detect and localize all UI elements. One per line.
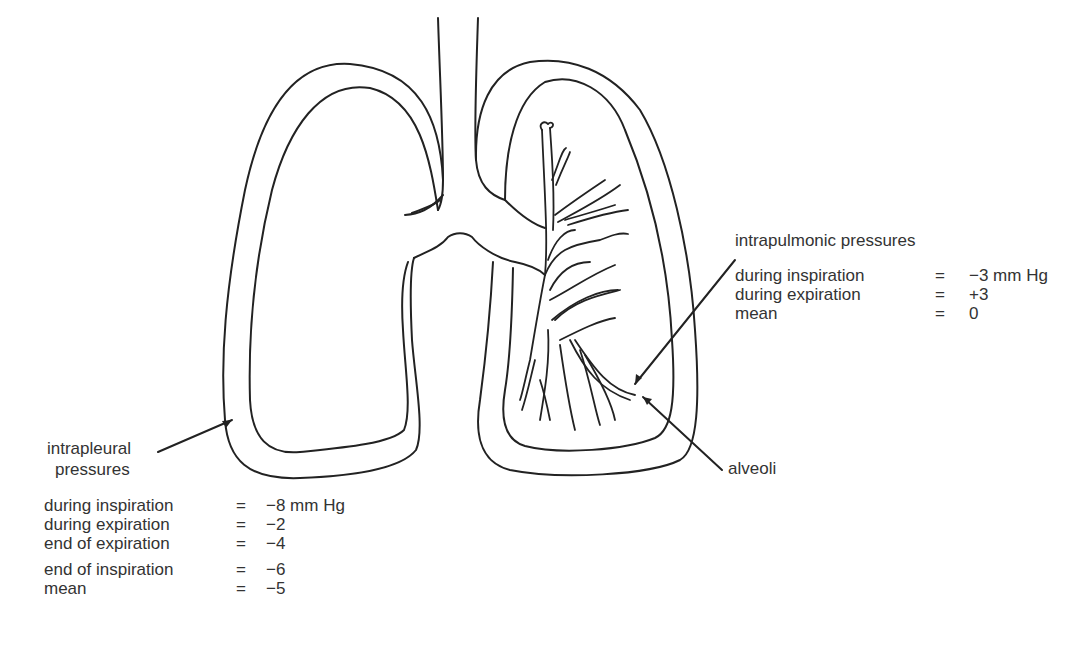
row-value: −8 mm Hg (256, 496, 345, 515)
bronchus-left (412, 200, 545, 275)
row-label: end of expiration (44, 534, 226, 553)
table-row: during inspiration = −3 mm Hg (735, 266, 1048, 285)
row-label: during inspiration (44, 496, 226, 515)
row-label: during inspiration (735, 266, 925, 285)
row-label: end of inspiration (44, 560, 226, 579)
intrapulmonic-title: intrapulmonic pressures (735, 231, 915, 251)
row-equals: = (925, 304, 955, 323)
bronchial-tree (520, 122, 635, 430)
row-equals: = (226, 515, 256, 534)
row-value: −4 (256, 534, 285, 553)
intrapulmonic-leader (635, 260, 735, 384)
intrapulmonic-table: during inspiration = −3 mm Hg during exp… (735, 266, 1048, 323)
row-value: +3 (955, 285, 988, 304)
intrapleural-table: during inspiration = −8 mm Hg during exp… (44, 496, 345, 598)
row-equals: = (226, 534, 256, 553)
row-equals: = (226, 496, 256, 515)
trachea (438, 18, 443, 210)
table-row: mean = 0 (735, 304, 1048, 323)
intrapleural-title-line1: intrapleural (47, 439, 131, 459)
table-row: during inspiration = −8 mm Hg (44, 496, 345, 515)
row-label: during expiration (44, 515, 226, 534)
row-value: −5 (256, 579, 285, 598)
row-equals: = (925, 266, 955, 285)
row-equals: = (226, 579, 256, 598)
row-value: −2 (256, 515, 285, 534)
intrapleural-title-line2: pressures (55, 460, 130, 480)
table-row: during expiration = +3 (735, 285, 1048, 304)
row-value: 0 (955, 304, 978, 323)
row-value: −3 mm Hg (955, 266, 1048, 285)
row-equals: = (226, 560, 256, 579)
row-label: mean (44, 579, 226, 598)
row-value: −6 (256, 560, 285, 579)
table-row: end of inspiration = −6 (44, 560, 345, 579)
alveoli-label: alveoli (728, 459, 776, 479)
table-row: during expiration = −2 (44, 515, 345, 534)
row-equals: = (925, 285, 955, 304)
row-label: during expiration (735, 285, 925, 304)
row-label: mean (735, 304, 925, 323)
table-row: mean = −5 (44, 579, 345, 598)
intrapleural-leader (158, 420, 232, 452)
left-lung-inner (250, 87, 438, 452)
table-row: end of expiration = −4 (44, 534, 345, 553)
